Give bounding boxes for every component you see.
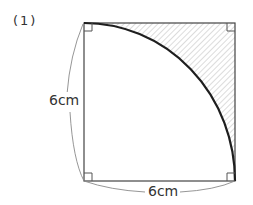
shaded-region xyxy=(84,23,235,181)
bottom-side-length-label: 6cm xyxy=(147,183,179,199)
geometry-figure xyxy=(0,0,253,205)
problem-number-label: (1) xyxy=(13,13,37,28)
left-side-length-label: 6cm xyxy=(49,92,79,108)
